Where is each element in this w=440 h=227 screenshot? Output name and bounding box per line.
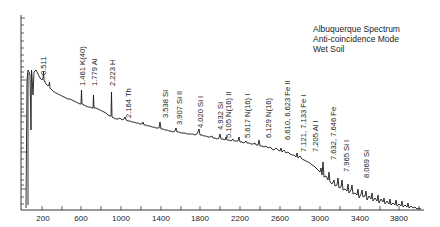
peak-label-5617-n16: 5.617 N(16) I [243,94,252,138]
peak-label-1779-al: 1.779 Al [90,58,99,86]
peak-label-3538-si: 3.538 Si [161,90,170,118]
peak-label-1461-k40: 1.461 K(40) [78,46,87,86]
x-tick-labels: 200 600 1000 1400 1800 2200 2600 3000 34… [36,214,408,223]
peak-label-5105-n16: 5.105 N(16) II [224,92,233,138]
x-tick-3800: 3800 [390,214,408,223]
peak-annotations: 0.511 1.461 K(40) 1.779 Al 2.223 H 2.164… [39,46,371,178]
chart-title: Albuquerque Spectrum [313,24,400,34]
chart-legend: Albuquerque Spectrum Anti-coincidence Mo… [313,24,400,54]
x-tick-600: 600 [74,214,88,223]
peak-label-7632-fe: 7.632, 7.646 Fe [329,107,338,160]
peak-label-7205-al: 7.205 Al I [311,120,320,152]
x-tick-2600: 2600 [271,214,289,223]
x-tick-1000: 1000 [112,214,130,223]
chart-mode: Anti-coincidence Mode [313,34,400,44]
x-tick-3400: 3400 [351,214,369,223]
peak-label-6129-n16: 6.129 N(16) [264,97,273,138]
y-axis-ticks [21,18,26,204]
peak-label-0511: 0.511 [39,57,48,75]
spectrum-trace [26,70,421,209]
chart-sample: Wet Soil [313,44,400,54]
peak-label-4020-si: 4.020 Si I [196,96,205,128]
peak-label-6610-fe: 6.610, 6.623 Fe II [283,80,292,140]
x-axis-ticks [42,206,419,210]
x-tick-1400: 1400 [152,214,170,223]
peak-label-3907-si: 3.907 Si II [175,91,184,125]
x-tick-200: 200 [36,214,50,223]
x-tick-2200: 2200 [231,214,249,223]
peak-label-2223-h: 2.223 H [108,59,117,86]
peak-label-7121-fe: 7.121, 7.133 Fe I [299,95,308,152]
x-tick-1800: 1800 [191,214,209,223]
peak-label-7965-si: 7.965 Si I [342,140,351,172]
peak-label-2164-th: 2.164 Th [124,88,133,118]
peak-label-8069-si: 8.069 Si [362,150,371,178]
x-tick-3000: 3000 [311,214,329,223]
